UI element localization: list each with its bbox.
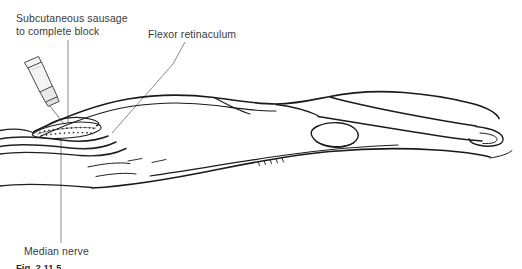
label-subcutaneous-line1: Subcutaneous sausage — [16, 12, 128, 24]
label-median-nerve: Median nerve — [24, 245, 89, 258]
label-subcutaneous-line2: to complete block — [16, 25, 99, 37]
label-subcutaneous-sausage: Subcutaneous sausageto complete block — [16, 12, 128, 37]
figure-caption: Fig. 2.11.5 — [16, 262, 61, 269]
hand-wrist-injection-illustration — [0, 0, 522, 269]
label-flexor-retinaculum: Flexor retinaculum — [148, 28, 236, 41]
